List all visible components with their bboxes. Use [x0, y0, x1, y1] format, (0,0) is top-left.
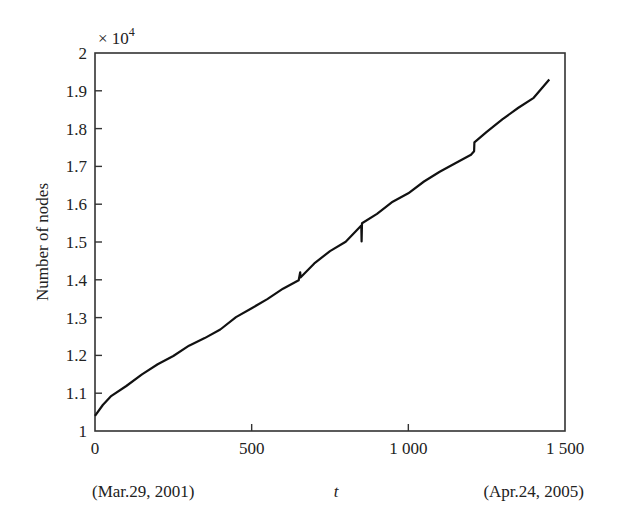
- x-axis-title: t: [334, 482, 340, 501]
- y-axis-ticks: 11.11.21.31.41.51.61.71.81.92: [66, 44, 102, 441]
- x-axis-ticks: 05001 0001 500: [91, 424, 584, 458]
- plot-frame: [95, 53, 565, 431]
- y-tick-label: 1.9: [66, 82, 87, 101]
- y-tick-label: 1.3: [66, 309, 87, 328]
- series-line-number-of-nodes: [95, 80, 549, 416]
- x-end-date-annotation: (Apr.24, 2005): [483, 482, 584, 501]
- x-tick-label: 0: [91, 439, 100, 458]
- y-tick-label: 1.8: [66, 120, 87, 139]
- y-tick-label: 1: [79, 422, 88, 441]
- y-tick-label: 1.2: [66, 346, 87, 365]
- x-tick-label: 1 500: [546, 439, 584, 458]
- x-start-date-annotation: (Mar.29, 2001): [92, 482, 194, 501]
- y-tick-label: 1.4: [66, 271, 88, 290]
- y-tick-label: 1.6: [66, 195, 87, 214]
- y-tick-label: 1.5: [66, 233, 87, 252]
- line-chart: 11.11.21.31.41.51.61.71.81.92 05001 0001…: [0, 0, 617, 525]
- y-tick-label: 1.7: [66, 157, 88, 176]
- y-tick-label: 1.1: [66, 384, 87, 403]
- y-multiplier-label: × 104: [98, 25, 135, 48]
- y-axis-title: Number of nodes: [33, 183, 52, 301]
- y-tick-label: 2: [79, 44, 88, 63]
- x-tick-label: 1 000: [389, 439, 427, 458]
- x-tick-label: 500: [239, 439, 265, 458]
